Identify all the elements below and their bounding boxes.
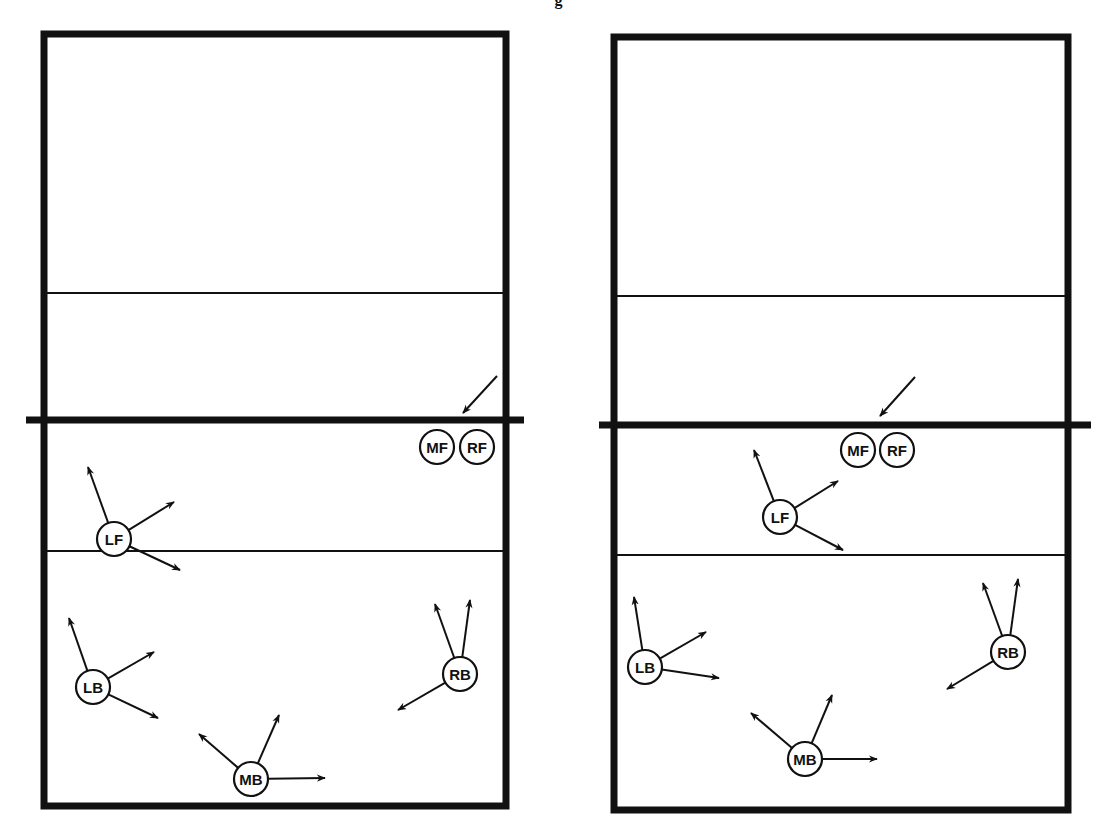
player-label: LB — [635, 659, 655, 676]
player-lb: LB — [628, 597, 719, 684]
court-diagram-left: MFRFLFLBMBRB — [26, 34, 524, 806]
movement-arrow-icon — [751, 713, 792, 748]
movement-arrow-icon — [947, 661, 993, 689]
movement-arrow-icon — [199, 734, 238, 768]
player-lf: LF — [88, 467, 180, 570]
movement-arrow-icon — [660, 632, 706, 659]
movement-arrow-icon — [129, 546, 180, 570]
player-label: RB — [449, 666, 471, 683]
player-mb: MB — [199, 715, 325, 796]
player-label: LF — [771, 509, 789, 526]
movement-arrow-icon — [983, 583, 1002, 636]
player-label: RB — [997, 644, 1019, 661]
player-label: LF — [105, 531, 123, 548]
player-mb: MB — [751, 695, 877, 776]
movement-arrow-icon — [435, 604, 454, 658]
movement-arrow-icon — [662, 669, 719, 678]
player-label: MF — [847, 442, 869, 459]
player-label: MF — [426, 439, 448, 456]
movement-arrow-icon — [108, 694, 158, 718]
movement-arrow-icon — [268, 778, 325, 779]
player-rf: RF — [460, 430, 494, 464]
movement-arrow-icon — [634, 597, 642, 650]
player-label: LB — [83, 679, 103, 696]
player-label: MB — [239, 771, 262, 788]
player-lf: LF — [754, 450, 843, 550]
movement-arrow-icon — [754, 450, 774, 501]
movement-arrow-icon — [398, 683, 445, 710]
movement-arrow-icon — [69, 618, 87, 671]
player-mf: MF — [420, 430, 454, 464]
movement-arrow-icon — [795, 525, 843, 550]
movement-arrow-icon — [462, 600, 470, 657]
volleyball-formations: MFRFLFLBMBRB MFRFLFLBMBRB — [0, 0, 1117, 830]
movement-arrow-icon — [108, 652, 154, 679]
player-rb: RB — [398, 600, 477, 710]
player-label: MB — [793, 751, 816, 768]
movement-arrow-icon — [128, 502, 174, 530]
player-mf: MF — [841, 433, 875, 467]
player-label: RF — [887, 442, 907, 459]
movement-arrow-icon — [88, 467, 108, 523]
court-diagram-right: MFRFLFLBMBRB — [599, 37, 1091, 810]
player-rb: RB — [947, 579, 1025, 689]
diagram-stage: g MFRFLFLBMBRB MFRFLFLBMBRB — [0, 0, 1117, 830]
ball-arrow-icon — [463, 376, 497, 413]
player-lb: LB — [69, 618, 158, 718]
movement-arrow-icon — [1010, 579, 1018, 635]
movement-arrow-icon — [794, 481, 838, 508]
movement-arrow-icon — [258, 715, 279, 763]
movement-arrow-icon — [812, 695, 832, 743]
player-label: RF — [467, 439, 487, 456]
clipped-title: g — [0, 0, 1117, 9]
player-rf: RF — [880, 433, 914, 467]
ball-arrow-icon — [880, 377, 915, 416]
